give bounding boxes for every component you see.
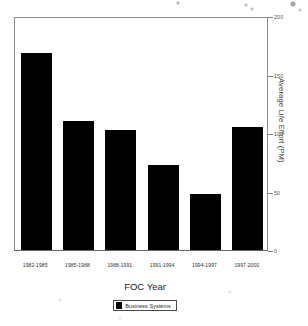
y-tick-mark bbox=[268, 134, 273, 135]
y-axis-title: Average Life Effort (PM) bbox=[277, 78, 286, 163]
y-tick-label: 200 bbox=[274, 14, 283, 20]
legend-entry-label: Business Systems bbox=[125, 303, 171, 309]
bar-1991-1994 bbox=[148, 165, 179, 250]
x-tick-label: 1994-1997 bbox=[183, 262, 225, 268]
y-tick-mark bbox=[268, 17, 273, 18]
y-tick-mark bbox=[268, 76, 273, 77]
y-tick-label: 0 bbox=[274, 248, 277, 254]
legend-color-swatch bbox=[116, 302, 122, 309]
x-tick-label: 1982-1985 bbox=[14, 262, 56, 268]
bar-1985-1988 bbox=[63, 121, 94, 250]
x-tick-label: 1988-1991 bbox=[99, 262, 141, 268]
x-tick-label: 1985-1988 bbox=[56, 262, 98, 268]
y-tick-mark bbox=[268, 193, 273, 194]
bar-series-business-systems bbox=[15, 18, 267, 250]
bar-chart-figure: 050100150200 Average Life Effort (PM) 19… bbox=[0, 0, 308, 326]
x-tick-label: 1991-1994 bbox=[141, 262, 183, 268]
y-axis: 050100150200 bbox=[268, 10, 308, 260]
y-tick-mark bbox=[268, 251, 273, 252]
x-axis-title: FOC Year bbox=[0, 281, 290, 292]
chart-legend: Business Systems bbox=[0, 300, 290, 311]
bar-1997-2000 bbox=[232, 127, 263, 250]
x-tick-label: 1997-2000 bbox=[226, 262, 268, 268]
x-axis-tick-labels: 1982-19851985-19881988-19911991-19941994… bbox=[14, 262, 268, 274]
bar-1982-1985 bbox=[21, 53, 52, 250]
y-tick-label: 50 bbox=[274, 190, 280, 196]
legend-box: Business Systems bbox=[113, 300, 177, 311]
plot-area bbox=[14, 17, 268, 251]
bar-1994-1997 bbox=[190, 194, 221, 250]
bar-1988-1991 bbox=[105, 130, 136, 251]
